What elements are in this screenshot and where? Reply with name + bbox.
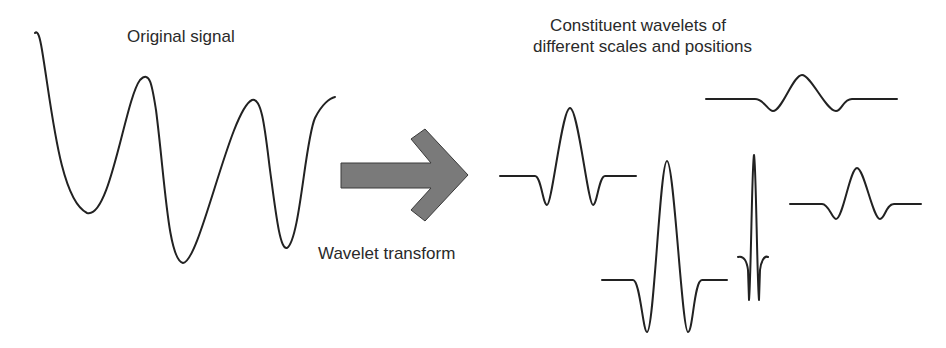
wavelet-medium-left <box>500 108 636 205</box>
transform-arrow <box>341 129 468 221</box>
wavelet-small-right <box>790 168 921 219</box>
constituent-wavelets-label: Constituent wavelets of different scales… <box>533 15 743 57</box>
constituent-label-line1: Constituent wavelets of <box>533 15 743 36</box>
original-signal-label: Original signal <box>127 26 235 47</box>
wavelet-large-tall <box>602 161 727 332</box>
wavelet-transform-label: Wavelet transform <box>318 243 455 264</box>
original-signal-curve <box>35 32 335 263</box>
constituent-label-line2: different scales and positions <box>533 36 743 57</box>
wavelet-wide-top <box>706 75 897 111</box>
wavelet-narrow <box>738 155 768 300</box>
diagram-canvas <box>0 0 946 348</box>
